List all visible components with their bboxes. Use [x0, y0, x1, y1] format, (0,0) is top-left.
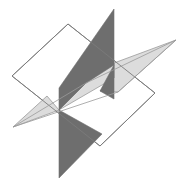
- three-intersecting-planes-diagram: [0, 0, 196, 178]
- figure-canvas: [0, 0, 196, 178]
